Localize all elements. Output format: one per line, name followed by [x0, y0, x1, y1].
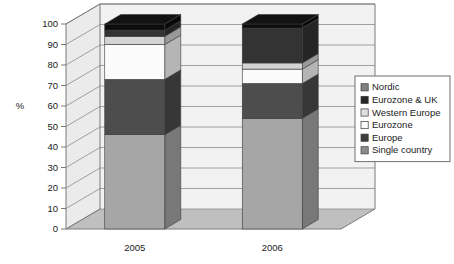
legend-label-Eurozone: Eurozone — [372, 119, 413, 130]
bar-segment-2005-Single-country — [105, 135, 165, 229]
bar-segment-2005-Western-Europe — [105, 36, 165, 44]
legend-label-Western-Europe: Western Europe — [372, 107, 440, 118]
legend-label-Single-country: Single country — [372, 144, 432, 155]
bar-column-2005[interactable] — [105, 15, 181, 230]
chart-canvas: 0102030405060708090100%20052006NordicEur… — [0, 0, 454, 264]
y-tick-label: 70 — [47, 80, 58, 91]
bar-segment-2005-Eurozone---UK — [105, 30, 165, 36]
y-tick-label: 60 — [47, 100, 58, 111]
bar-segment-2005-Europe — [105, 79, 165, 134]
y-tick-label: 50 — [47, 121, 58, 132]
y-tick-label: 100 — [42, 18, 58, 29]
stacked-column-chart: 0102030405060708090100%20052006NordicEur… — [0, 0, 454, 264]
bar-segment-2006-Eurozone — [242, 69, 302, 83]
y-tick-label: 20 — [47, 182, 58, 193]
y-axis-title: % — [16, 100, 25, 111]
bar-column-2006[interactable] — [242, 15, 318, 230]
legend-swatch-Single-country — [361, 147, 368, 154]
bar-segment-side-Single-country — [165, 125, 181, 229]
x-tick-label: 2005 — [124, 242, 145, 253]
legend: NordicEurozone & UKWestern EuropeEurozon… — [355, 76, 450, 162]
bar-segment-2006-Single-country — [242, 118, 302, 229]
bar-segment-2005-Nordic — [105, 24, 165, 30]
bar-segment-side-Single-country — [302, 109, 318, 229]
y-tick-label: 40 — [47, 141, 58, 152]
y-axis: 0102030405060708090100% — [16, 18, 66, 234]
legend-swatch-Nordic — [361, 84, 368, 91]
legend-swatch-Western-Europe — [361, 109, 368, 116]
legend-swatch-Eurozone — [361, 122, 368, 129]
legend-swatch-Eurozone---UK — [361, 96, 368, 103]
legend-label-Nordic: Nordic — [372, 81, 400, 92]
y-tick-label: 80 — [47, 59, 58, 70]
y-tick-label: 30 — [47, 162, 58, 173]
legend-label-Eurozone---UK: Eurozone & UK — [372, 94, 438, 105]
y-tick-label: 90 — [47, 39, 58, 50]
x-tick-label: 2006 — [262, 242, 283, 253]
y-tick-label: 0 — [53, 223, 58, 234]
legend-swatch-Europe — [361, 134, 368, 141]
y-tick-label: 10 — [47, 203, 58, 214]
bar-segment-2006-Europe — [242, 83, 302, 118]
legend-label-Europe: Europe — [372, 132, 403, 143]
bar-segment-2006-Western-Europe — [242, 63, 302, 69]
bar-segment-2006-Eurozone---UK — [242, 28, 302, 63]
bar-segment-2006-Nordic — [242, 24, 302, 28]
bar-segment-side-Europe — [165, 70, 181, 135]
x-axis-label-group-2005: 2005 — [124, 242, 145, 253]
bar-segment-2005-Eurozone — [105, 45, 165, 80]
x-axis-label-group-2006: 2006 — [262, 242, 283, 253]
